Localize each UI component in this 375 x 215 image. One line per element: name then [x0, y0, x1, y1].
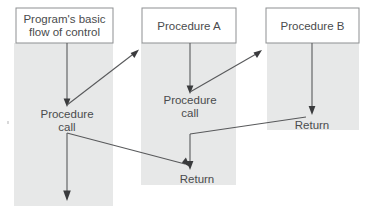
program-procedure-call-label-line2: call — [58, 121, 75, 133]
procedure-a-box-label: Procedure A — [157, 20, 221, 32]
diagram-canvas: Program's basic flow of control Procedur… — [0, 0, 375, 215]
procedure-b-lane — [267, 43, 359, 130]
procedure-a-call-label-line1: Procedure — [163, 94, 216, 106]
procedure-a-return-label: Return — [180, 173, 215, 185]
procedure-a-call-label-line2: call — [181, 107, 198, 119]
procedure-b-return-label: Return — [295, 119, 330, 131]
scan-artifact-speck — [7, 121, 9, 124]
program-box-label-line1: Program's basic — [23, 13, 105, 25]
flow-of-control-diagram: Program's basic flow of control Procedur… — [0, 0, 375, 215]
procedure-b-box-label: Procedure B — [281, 20, 345, 32]
program-procedure-call-label-line1: Procedure — [40, 108, 93, 120]
program-box-label-line2: flow of control — [29, 26, 100, 38]
